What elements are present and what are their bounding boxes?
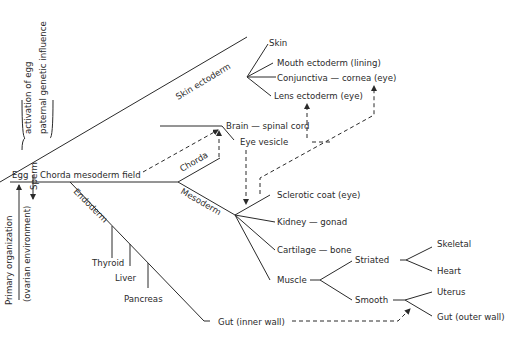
ovarian-env-label: (ovarian environment) — [22, 206, 32, 302]
conjunctiva-label: Conjunctiva — cornea (eye) — [277, 73, 396, 83]
primary-org-label: Primary organization — [4, 216, 14, 305]
sclerotic-label: Sclerotic coat (eye) — [277, 190, 360, 200]
activation-label: activation of egg — [23, 61, 33, 134]
cartilage-label: Cartilage — bone — [277, 245, 351, 255]
endoderm-label: Endoderm — [72, 186, 110, 224]
brain-label: Brain — spinal cord — [226, 121, 310, 131]
gut-inner-label: Gut (inner wall) — [218, 317, 285, 327]
smooth-label: Smooth — [355, 295, 388, 305]
sperm-label: Sperm — [29, 162, 39, 190]
chorda-label: Chorda — [178, 150, 210, 174]
mesoderm-label: Mesoderm — [179, 186, 223, 217]
main-axis-label: Chorda mesoderm field — [40, 170, 141, 180]
pancreas-label: Pancreas — [124, 294, 163, 304]
skin-label: Skin — [269, 38, 287, 48]
induction-arrow — [292, 309, 410, 321]
skin-ectoderm-label: Skin ectoderm — [174, 61, 232, 102]
lens-label: Lens ectoderm (eye) — [274, 91, 363, 101]
paternal-label: paternal genetic influence — [38, 21, 48, 134]
muscle-label: Muscle — [277, 275, 307, 285]
striated-label: Striated — [355, 255, 389, 265]
uterus-label: Uterus — [437, 287, 466, 297]
egg-label: Egg — [12, 170, 28, 180]
kidney-label: Kidney — gonad — [277, 217, 347, 227]
heart-label: Heart — [437, 266, 462, 276]
eye-vesicle-label: Eye vesicle — [240, 137, 288, 147]
skeletal-label: Skeletal — [437, 239, 471, 249]
lineage-diagram: activation of egg paternal genetic influ… — [0, 0, 509, 338]
liver-label: Liver — [115, 273, 137, 283]
gut-outer-label: Gut (outer wall) — [437, 312, 505, 322]
mouth-label: Mouth ectoderm (lining) — [277, 58, 381, 68]
thyroid-label: Thyroid — [91, 258, 124, 268]
